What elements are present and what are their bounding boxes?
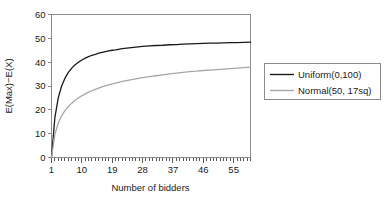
legend-label-0: Uniform(0,100) bbox=[298, 69, 361, 80]
plot-border-top-right bbox=[52, 15, 251, 158]
y-tick-label: 10 bbox=[35, 128, 46, 139]
series-line-uniform-0-100 bbox=[52, 42, 251, 157]
y-tick-label: 20 bbox=[35, 104, 46, 115]
line-chart: 0102030405060 1101928374655 Number of bi… bbox=[0, 0, 389, 202]
x-axis-title: Number of bidders bbox=[111, 182, 189, 193]
plot-frame bbox=[52, 15, 251, 158]
y-tick-label: 0 bbox=[40, 152, 45, 163]
legend: Uniform(0,100)Normal(50, 17sq) bbox=[265, 64, 381, 100]
x-tick-label: 10 bbox=[77, 164, 88, 175]
legend-label-1: Normal(50, 17sq) bbox=[298, 85, 371, 96]
y-axis: 0102030405060 bbox=[35, 9, 52, 163]
x-tick-label: 19 bbox=[107, 164, 118, 175]
y-tick-label: 40 bbox=[35, 57, 46, 68]
x-tick-label: 46 bbox=[198, 164, 209, 175]
x-tick-label: 55 bbox=[228, 164, 239, 175]
data-series-group bbox=[52, 42, 251, 157]
chart-figure: 0102030405060 1101928374655 Number of bi… bbox=[0, 0, 389, 202]
y-tick-label: 60 bbox=[35, 9, 46, 20]
x-axis: 1101928374655 bbox=[49, 158, 251, 176]
y-tick-label: 30 bbox=[35, 80, 46, 91]
y-tick-label: 50 bbox=[35, 33, 46, 44]
x-tick-label: 28 bbox=[137, 164, 148, 175]
x-tick-label: 37 bbox=[168, 164, 179, 175]
series-line-normal-50-17sq bbox=[52, 67, 251, 157]
y-axis-title: E(Max)−E(X) bbox=[3, 58, 14, 113]
x-tick-label: 1 bbox=[49, 164, 54, 175]
